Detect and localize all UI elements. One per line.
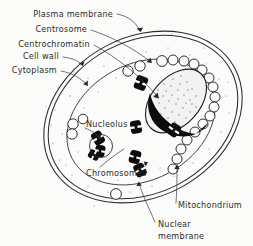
- mitochondrion: [176, 144, 186, 154]
- label-chromosomes: Chromosomes: [86, 168, 147, 178]
- mitochondrion: [67, 129, 77, 139]
- mitochondrion: [209, 102, 219, 112]
- label-centrosome: Centrosome: [35, 24, 87, 34]
- label-plasma-membrane: Plasma membrane: [33, 9, 113, 19]
- mitochondrion: [182, 135, 192, 145]
- chromosome: [132, 74, 149, 92]
- chromosome: [128, 149, 143, 165]
- chromosome: [129, 120, 143, 135]
- mitochondrion: [179, 56, 189, 66]
- arrowhead-plasma-membrane: [137, 27, 144, 32]
- label-cell-wall: Cell wall: [23, 51, 59, 61]
- mitochondrion: [68, 119, 78, 129]
- leader-cytoplasm: [61, 71, 87, 85]
- label-nuclear-membrane-line2: membrane: [158, 231, 204, 241]
- mitochondrion: [111, 189, 122, 200]
- label-nuclear-membrane-line1: Nuclear: [158, 219, 191, 229]
- label-mitochondrium: Mitochondrium: [178, 200, 242, 210]
- arrowhead-chromosomes-a: [144, 161, 148, 166]
- leader-plasma-membrane: [117, 14, 140, 31]
- label-centrochromatin: Centrochromatin: [18, 39, 90, 49]
- mitochondrion: [168, 55, 178, 65]
- cell-diagram-figure: Plasma membrane Centrosome Centrochromat…: [0, 0, 253, 246]
- mitochondrion: [157, 56, 168, 67]
- leader-nuclear-membrane: [139, 183, 155, 222]
- arrowhead-centrosome: [147, 58, 152, 63]
- mitochondrion: [135, 61, 145, 71]
- mitochondrion: [205, 111, 215, 121]
- leader-cell-wall: [63, 57, 82, 65]
- mitochondrion: [210, 92, 220, 102]
- mitochondrion: [172, 154, 182, 164]
- mitochondrion: [208, 82, 218, 92]
- label-cytoplasm: Cytoplasm: [12, 65, 57, 75]
- leader-centrosome: [91, 30, 151, 62]
- label-nucleolus: Nucleolus: [86, 119, 128, 129]
- cell-wall-outline: [19, 3, 253, 231]
